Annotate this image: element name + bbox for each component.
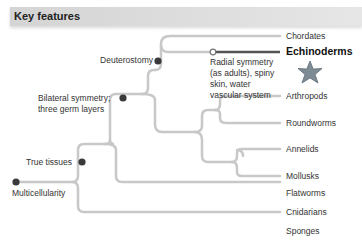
true-tissues-node-icon xyxy=(78,158,85,165)
taxon-mollusks: Mollusks xyxy=(286,171,319,182)
taxon-arthropods: Arthropods xyxy=(286,91,328,102)
taxon-chordates: Chordates xyxy=(286,31,325,42)
starfish-icon xyxy=(298,61,322,83)
deuterostomy-label: Deuterostomy xyxy=(90,55,153,66)
true-tissues-label: True tissues xyxy=(26,157,72,168)
multicellularity-node-icon xyxy=(12,178,19,185)
bilateral-label-1: Bilateral symmetry; xyxy=(38,93,110,104)
multicellularity-label: Multicellularity xyxy=(12,188,65,199)
radial-label-3: skin, water xyxy=(210,79,251,90)
deuterostomy-node-icon xyxy=(154,57,161,64)
taxon-sponges: Sponges xyxy=(286,226,320,237)
bilateral-label-2: three germ layers xyxy=(38,104,104,115)
taxon-roundworms: Roundworms xyxy=(286,118,336,129)
radial-label-4: vascular system xyxy=(210,90,271,101)
radial-node-icon xyxy=(210,49,216,55)
taxon-flatworms: Flatworms xyxy=(286,188,325,199)
taxon-annelids: Annelids xyxy=(286,144,319,155)
taxon-cnidarians: Cnidarians xyxy=(286,207,327,218)
bilateral-node-icon xyxy=(119,94,126,101)
radial-label-1: Radial symmetry xyxy=(210,57,273,68)
radial-label-2: (as adults), spiny xyxy=(210,68,274,79)
taxon-echinoderms: Echinoderms xyxy=(286,46,353,57)
